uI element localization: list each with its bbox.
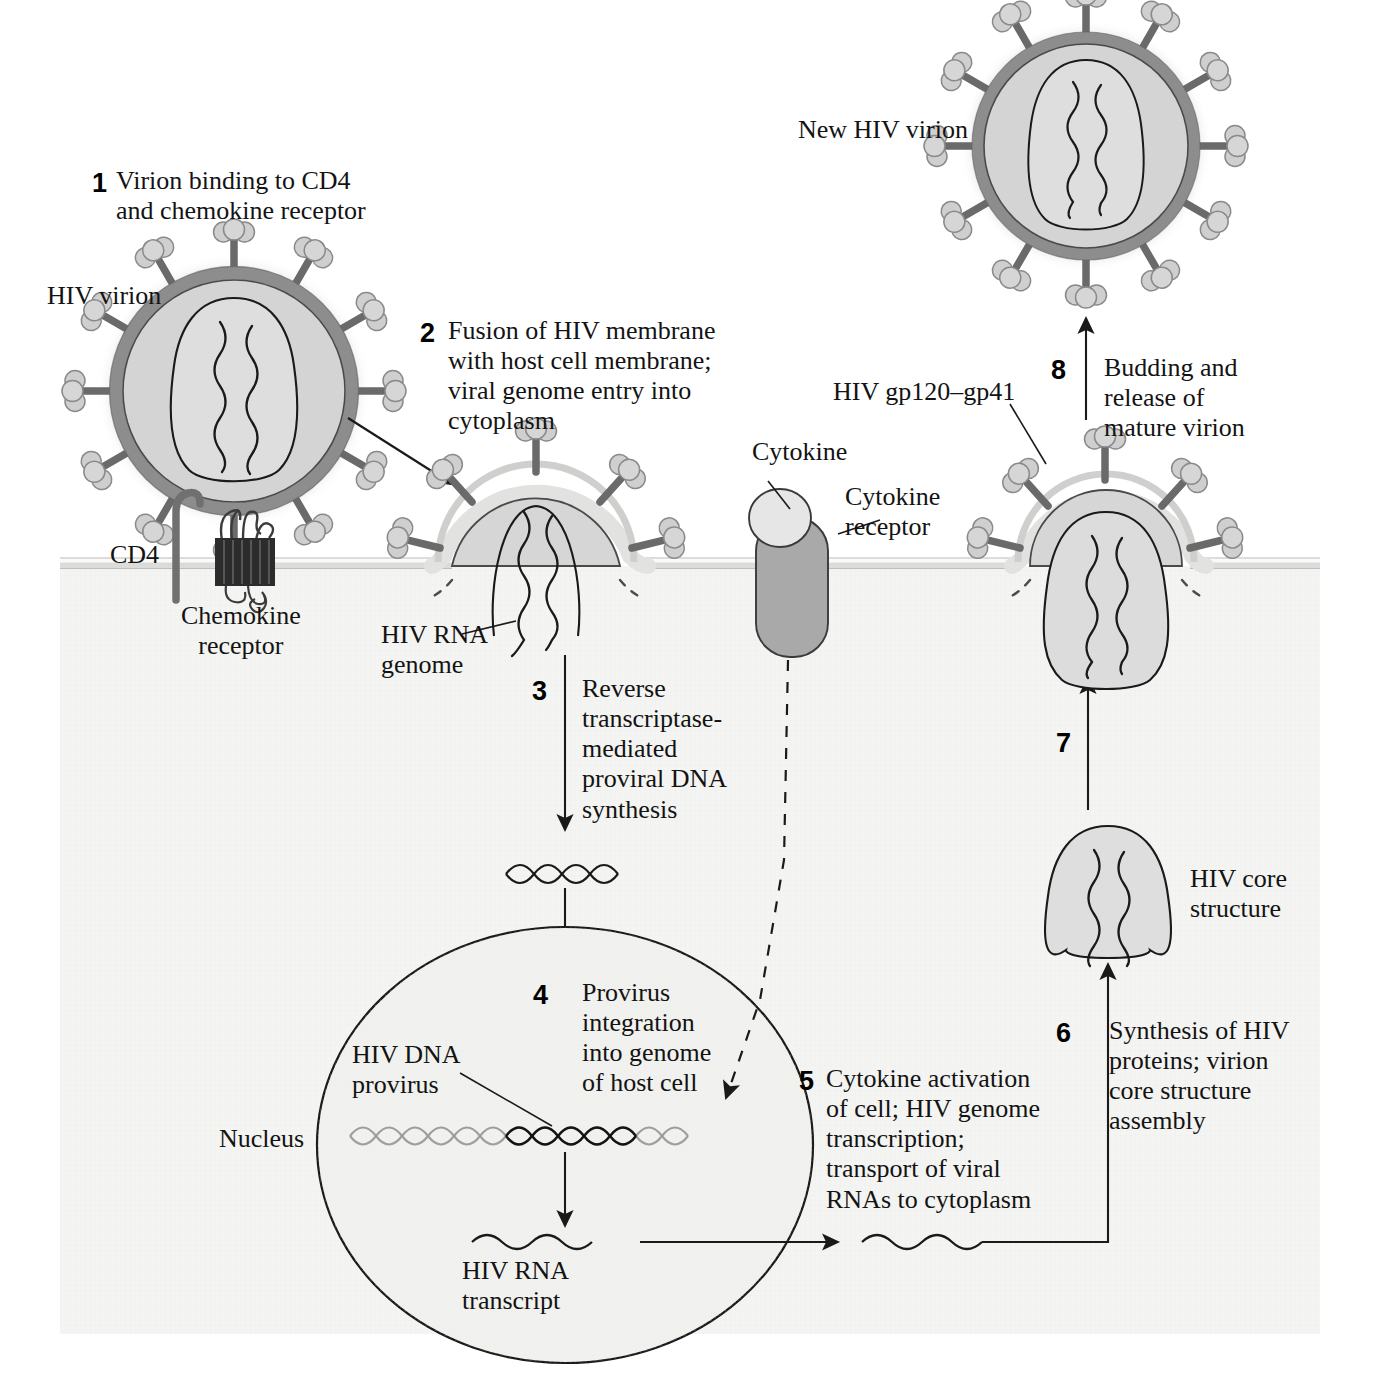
step-number-5: 5	[799, 1066, 814, 1097]
new-hiv-virion	[924, 0, 1248, 308]
step-number-7: 7	[1056, 728, 1071, 759]
step-number-3: 3	[532, 676, 547, 707]
step-text-1: Virion binding to CD4 and chemokine rece…	[116, 166, 366, 226]
step-number-2: 2	[420, 318, 435, 349]
label-nucleus: Nucleus	[219, 1124, 304, 1154]
cytokine-receptor-complex	[749, 489, 828, 657]
step-text-4: Provirus integration into genome of host…	[582, 978, 711, 1099]
label-hiv-dna-provirus: HIV DNA provirus	[352, 1040, 461, 1100]
step-text-6: Synthesis of HIV proteins; virion core s…	[1109, 1016, 1290, 1137]
leader-gp120-gp41	[1010, 404, 1046, 464]
label-hiv-rna-transcript: HIV RNA transcript	[462, 1256, 569, 1316]
label-cd4: CD4	[110, 540, 159, 570]
step-number-8: 8	[1051, 355, 1066, 386]
step-text-3: Reverse transcriptase- mediated proviral…	[582, 674, 727, 825]
step-number-1: 1	[92, 168, 107, 199]
label-new-hiv-virion: New HIV virion	[798, 115, 968, 145]
step-number-6: 6	[1056, 1018, 1071, 1049]
label-hiv-virion: HIV virion	[47, 281, 161, 311]
step-text-5: Cytokine activation of cell; HIV genome …	[826, 1064, 1040, 1215]
label-cytokine-receptor: Cytokine receptor	[845, 482, 940, 542]
hiv-replication-diagram: 1 Virion binding to CD4 and chemokine re…	[0, 0, 1374, 1397]
label-hiv-gp120-gp41: HIV gp120–gp41	[833, 377, 1015, 407]
label-hiv-core-structure: HIV core structure	[1190, 864, 1287, 924]
step-text-8: Budding and release of mature virion	[1104, 353, 1245, 443]
label-chemokine-receptor: Chemokine receptor	[181, 601, 301, 661]
label-hiv-rna-genome: HIV RNA genome	[381, 620, 488, 680]
step-text-2: Fusion of HIV membrane with host cell me…	[448, 316, 715, 437]
step-number-4: 4	[533, 980, 548, 1011]
label-cytokine: Cytokine	[752, 437, 847, 467]
cytokine-molecule	[749, 489, 811, 547]
